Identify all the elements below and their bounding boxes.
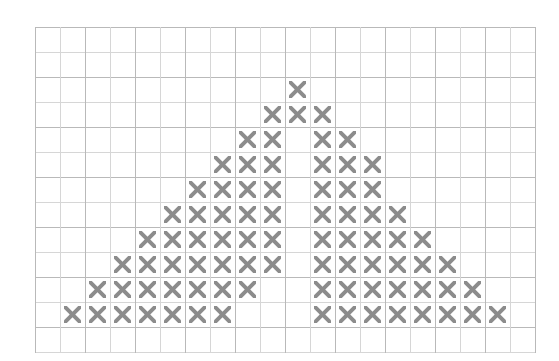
x-mark-icon[interactable]: [389, 306, 406, 323]
x-mark-icon[interactable]: [139, 281, 156, 298]
x-mark-icon[interactable]: [364, 181, 381, 198]
x-mark-icon[interactable]: [389, 256, 406, 273]
grid-line-vertical: [35, 27, 36, 353]
grid-line-vertical: [60, 27, 61, 353]
grid-line-vertical: [360, 27, 361, 353]
x-mark-icon[interactable]: [439, 281, 456, 298]
x-mark-icon[interactable]: [164, 231, 181, 248]
x-mark-icon[interactable]: [314, 281, 331, 298]
x-mark-icon[interactable]: [114, 256, 131, 273]
x-mark-icon[interactable]: [264, 181, 281, 198]
x-mark-icon[interactable]: [239, 131, 256, 148]
x-mark-icon[interactable]: [264, 156, 281, 173]
x-mark-icon[interactable]: [214, 231, 231, 248]
x-mark-icon[interactable]: [114, 281, 131, 298]
x-mark-icon[interactable]: [139, 256, 156, 273]
x-mark-icon[interactable]: [464, 306, 481, 323]
x-mark-icon[interactable]: [239, 231, 256, 248]
x-mark-icon[interactable]: [89, 281, 106, 298]
x-mark-icon[interactable]: [189, 181, 206, 198]
grid-line-vertical: [410, 27, 411, 353]
x-mark-icon[interactable]: [364, 206, 381, 223]
x-mark-icon[interactable]: [364, 306, 381, 323]
grid-line-vertical: [85, 27, 86, 353]
x-mark-icon[interactable]: [314, 156, 331, 173]
x-mark-icon[interactable]: [214, 306, 231, 323]
grid-line-vertical: [510, 27, 511, 353]
x-mark-icon[interactable]: [339, 181, 356, 198]
grid-line-vertical: [110, 27, 111, 353]
x-mark-icon[interactable]: [214, 181, 231, 198]
grid-line-vertical: [285, 27, 286, 353]
x-mark-icon[interactable]: [189, 206, 206, 223]
grid-line-vertical: [135, 27, 136, 353]
x-mark-icon[interactable]: [139, 306, 156, 323]
x-mark-icon[interactable]: [364, 231, 381, 248]
x-mark-icon[interactable]: [314, 131, 331, 148]
x-mark-icon[interactable]: [364, 256, 381, 273]
x-mark-icon[interactable]: [389, 231, 406, 248]
grid-line-vertical: [535, 27, 536, 353]
x-mark-icon[interactable]: [164, 256, 181, 273]
x-mark-icon[interactable]: [414, 306, 431, 323]
x-mark-icon[interactable]: [489, 306, 506, 323]
x-mark-icon[interactable]: [289, 106, 306, 123]
x-mark-icon[interactable]: [239, 206, 256, 223]
x-mark-icon[interactable]: [214, 281, 231, 298]
x-mark-icon[interactable]: [414, 231, 431, 248]
grid-line-vertical: [260, 27, 261, 353]
x-mark-icon[interactable]: [139, 231, 156, 248]
x-mark-icon[interactable]: [264, 106, 281, 123]
grid-line-vertical: [160, 27, 161, 353]
x-mark-icon[interactable]: [314, 306, 331, 323]
x-mark-icon[interactable]: [414, 281, 431, 298]
x-mark-icon[interactable]: [214, 256, 231, 273]
x-mark-icon[interactable]: [389, 281, 406, 298]
x-mark-icon[interactable]: [339, 256, 356, 273]
x-mark-icon[interactable]: [164, 281, 181, 298]
x-mark-icon[interactable]: [314, 106, 331, 123]
x-mark-icon[interactable]: [289, 81, 306, 98]
x-mark-icon[interactable]: [439, 256, 456, 273]
x-mark-icon[interactable]: [89, 306, 106, 323]
grid-line-vertical: [310, 27, 311, 353]
x-mark-icon[interactable]: [189, 306, 206, 323]
x-mark-icon[interactable]: [239, 156, 256, 173]
x-mark-icon[interactable]: [214, 156, 231, 173]
x-mark-icon[interactable]: [339, 231, 356, 248]
x-mark-icon[interactable]: [189, 256, 206, 273]
x-mark-icon[interactable]: [164, 206, 181, 223]
x-mark-icon[interactable]: [339, 156, 356, 173]
stitch-grid[interactable]: [35, 27, 535, 352]
x-mark-icon[interactable]: [314, 206, 331, 223]
x-mark-icon[interactable]: [214, 206, 231, 223]
grid-line-vertical: [460, 27, 461, 353]
x-mark-icon[interactable]: [189, 231, 206, 248]
x-mark-icon[interactable]: [314, 231, 331, 248]
x-mark-icon[interactable]: [414, 256, 431, 273]
x-mark-icon[interactable]: [264, 256, 281, 273]
x-mark-icon[interactable]: [314, 256, 331, 273]
x-mark-icon[interactable]: [264, 231, 281, 248]
x-mark-icon[interactable]: [189, 281, 206, 298]
x-mark-icon[interactable]: [439, 306, 456, 323]
x-mark-icon[interactable]: [239, 281, 256, 298]
x-mark-icon[interactable]: [314, 181, 331, 198]
x-mark-icon[interactable]: [339, 206, 356, 223]
pattern-canvas: [0, 0, 559, 361]
x-mark-icon[interactable]: [239, 256, 256, 273]
x-mark-icon[interactable]: [364, 281, 381, 298]
x-mark-icon[interactable]: [339, 131, 356, 148]
x-mark-icon[interactable]: [114, 306, 131, 323]
grid-line-vertical: [185, 27, 186, 353]
x-mark-icon[interactable]: [389, 206, 406, 223]
x-mark-icon[interactable]: [339, 281, 356, 298]
x-mark-icon[interactable]: [339, 306, 356, 323]
x-mark-icon[interactable]: [239, 181, 256, 198]
x-mark-icon[interactable]: [64, 306, 81, 323]
x-mark-icon[interactable]: [464, 281, 481, 298]
x-mark-icon[interactable]: [364, 156, 381, 173]
x-mark-icon[interactable]: [264, 206, 281, 223]
x-mark-icon[interactable]: [164, 306, 181, 323]
x-mark-icon[interactable]: [264, 131, 281, 148]
